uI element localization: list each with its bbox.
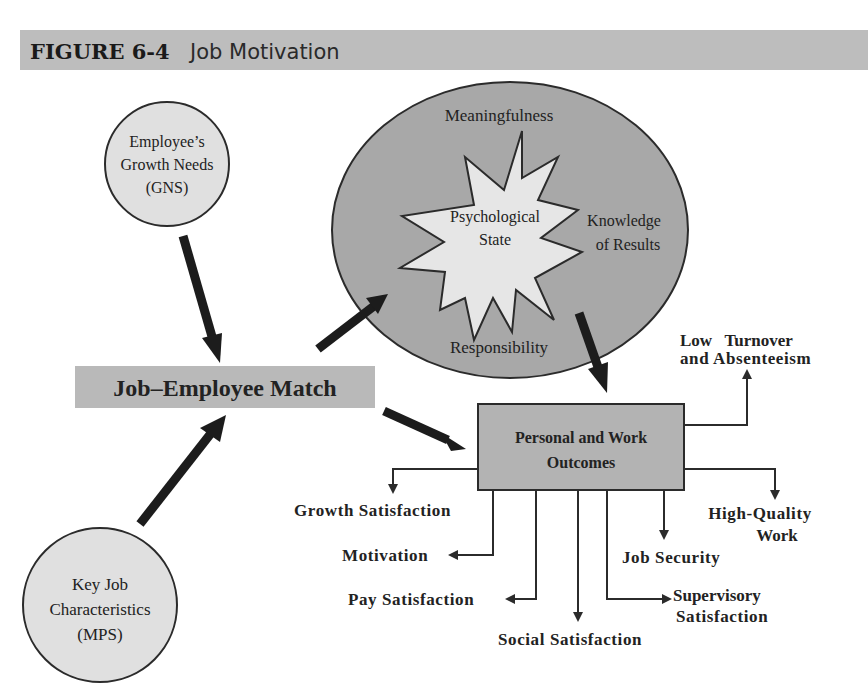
outcomes-box-line1: Personal and Work <box>515 429 647 446</box>
growth-needs-line1: Employee’s <box>129 133 205 151</box>
arrow-mps-to-match <box>140 415 226 524</box>
psychological-state-line1: Psychological <box>450 208 540 226</box>
figure-title-bar: FIGURE 6-4 Job Motivation <box>20 30 868 70</box>
growth-needs-line3: (GNS) <box>146 179 189 197</box>
psychological-state-line2: State <box>479 231 511 248</box>
supervisory-line1: Supervisory <box>673 586 761 605</box>
social-satisfaction-label: Social Satisfaction <box>498 630 642 649</box>
growth-needs-line2: Growth Needs <box>121 156 214 173</box>
low-turnover-line2: and Absenteeism <box>680 349 811 368</box>
knowledge-label-line2: of Results <box>596 236 660 253</box>
supervisory-line2: Satisfaction <box>676 607 768 626</box>
outcomes-node: Personal and Work Outcomes <box>478 404 684 490</box>
job-characteristics-line2: Characteristics <box>49 600 150 619</box>
job-characteristics-node: Key Job Characteristics (MPS) <box>23 528 177 682</box>
job-employee-match-node: Job–Employee Match <box>75 366 375 408</box>
meaningfulness-label: Meaningfulness <box>445 106 554 125</box>
responsibility-label: Responsibility <box>450 338 549 357</box>
figure-label: FIGURE 6-4 <box>30 39 170 64</box>
knowledge-label-line1: Knowledge <box>587 212 661 230</box>
high-quality-line2: Work <box>756 526 798 545</box>
job-characteristics-line1: Key Job <box>72 575 128 594</box>
motivation-label: Motivation <box>342 546 428 565</box>
low-turnover-line1: Low Turnover <box>680 331 793 350</box>
arrow-gns-to-match <box>183 236 222 363</box>
growth-satisfaction-label: Growth Satisfaction <box>294 501 451 520</box>
figure-title: Job Motivation <box>188 40 340 64</box>
job-characteristics-line3: (MPS) <box>77 625 122 644</box>
high-quality-line1: High-Quality <box>708 504 812 523</box>
psychological-state-node: Psychological State Meaningfulness Knowl… <box>332 82 688 378</box>
arrow-match-to-outcomes <box>384 411 466 451</box>
job-motivation-diagram: FIGURE 6-4 Job Motivation Employee’s Gro… <box>0 0 868 693</box>
growth-needs-node: Employee’s Growth Needs (GNS) <box>105 102 229 226</box>
match-label: Job–Employee Match <box>113 375 336 401</box>
job-security-label: Job Security <box>622 548 720 567</box>
pay-satisfaction-label: Pay Satisfaction <box>348 590 474 609</box>
outcomes-box-line2: Outcomes <box>547 454 615 471</box>
